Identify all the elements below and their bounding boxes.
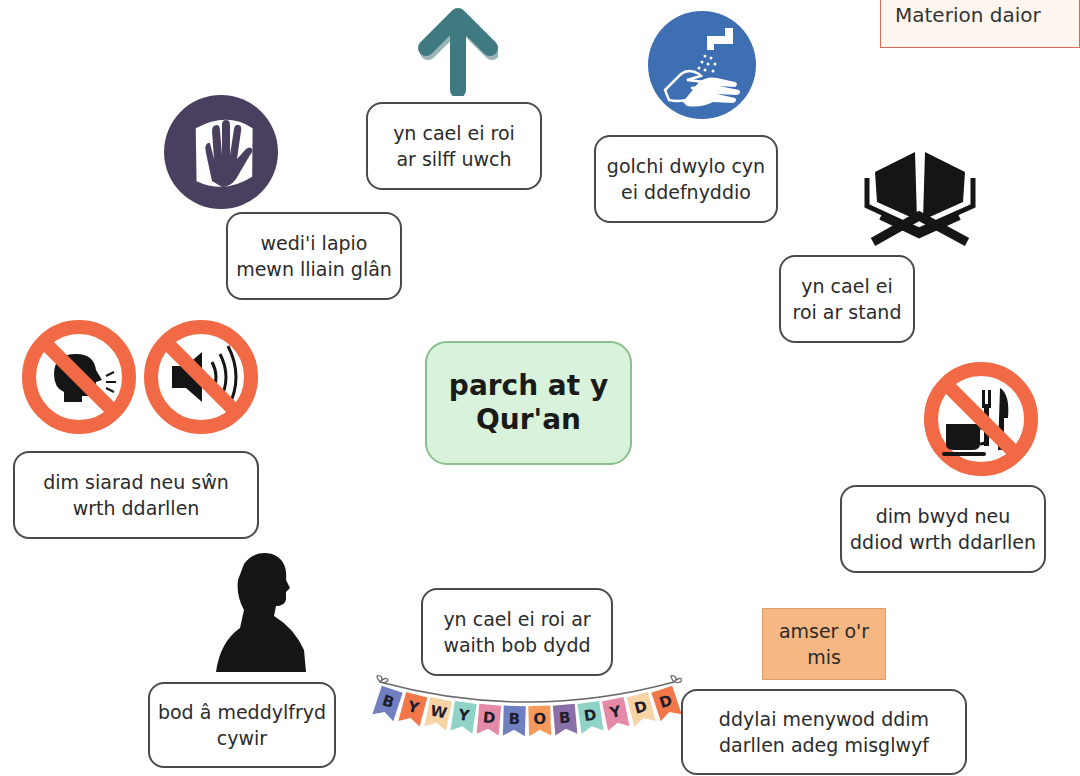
node-wash-hands-label: golchi dwylo cyn ei ddefnyddio	[607, 153, 765, 205]
arrow-up-icon	[418, 6, 498, 96]
bunting-flag: W	[424, 697, 452, 731]
svg-text:B: B	[558, 708, 571, 727]
node-mindset-label: bod â meddylfryd cywir	[158, 699, 326, 751]
central-topic: parch at y Qur'an	[425, 341, 632, 465]
node-menstruation-label: ddylai menywod ddim darllen adeg misglwy…	[719, 706, 929, 758]
bunting-flag: B	[372, 686, 402, 721]
node-high-shelf-label: yn cael ei roi ar silff uwch	[393, 120, 515, 172]
node-no-food-label: dim bwyd neu ddiod wrth ddarllen	[850, 503, 1036, 555]
bunting-flag: B	[503, 706, 526, 737]
person-silhouette-icon	[214, 550, 310, 672]
node-wash-hands-box: golchi dwylo cyn ei ddefnyddio	[594, 135, 778, 223]
time-of-month-note: amser o'r mis	[762, 608, 886, 680]
bunting-flag: Y	[451, 701, 477, 734]
node-mindset-box: bod â meddylfryd cywir	[148, 682, 336, 768]
bunting-flag: O	[528, 706, 551, 737]
corner-topic-label: Materion daior	[880, 0, 1080, 48]
node-daily-box: yn cael ei roi ar waith bob dydd	[421, 588, 613, 676]
node-stand-label: yn cael ei roi ar stand	[793, 273, 902, 325]
hand-in-cloth-icon	[162, 93, 280, 211]
quran-stand-icon	[855, 142, 985, 247]
node-wrapped-box: wedi'i lapio mewn lliain glân	[226, 212, 402, 300]
node-menstruation-box: ddylai menywod ddim darllen adeg misglwy…	[681, 689, 967, 775]
svg-text:B: B	[508, 710, 520, 728]
node-no-talking-label: dim siarad neu sŵn wrth ddarllen	[43, 469, 229, 521]
no-talking-icon	[20, 318, 138, 436]
svg-text:O: O	[533, 710, 546, 728]
bunting-flag: D	[477, 704, 502, 736]
node-daily-label: yn cael ei roi ar waith bob dydd	[443, 606, 590, 658]
bunting-icon: BYWYDBOBDYDD	[372, 672, 682, 752]
node-no-food-box: dim bwyd neu ddiod wrth ddarllen	[840, 485, 1046, 573]
node-stand-box: yn cael ei roi ar stand	[779, 255, 915, 343]
bunting-flag: Y	[398, 692, 427, 727]
no-food-drink-icon	[922, 360, 1040, 478]
bunting-flag: D	[651, 686, 681, 721]
corner-topic-text: Materion daior	[895, 3, 1041, 27]
central-topic-label: parch at y Qur'an	[449, 369, 608, 437]
bunting-flag: D	[627, 692, 656, 727]
node-high-shelf-box: yn cael ei roi ar silff uwch	[366, 102, 542, 190]
svg-text:D: D	[482, 708, 496, 727]
node-wrapped-label: wedi'i lapio mewn lliain glân	[236, 230, 392, 282]
bunting-flag: Y	[602, 697, 630, 731]
time-of-month-label: amser o'r mis	[779, 618, 869, 670]
bunting-flag: D	[577, 701, 603, 734]
hand-washing-icon	[647, 10, 757, 120]
svg-text:D: D	[583, 706, 598, 726]
node-no-talking-box: dim siarad neu sŵn wrth ddarllen	[13, 451, 259, 539]
bunting-flag: B	[553, 704, 578, 736]
no-sound-icon	[142, 318, 260, 436]
